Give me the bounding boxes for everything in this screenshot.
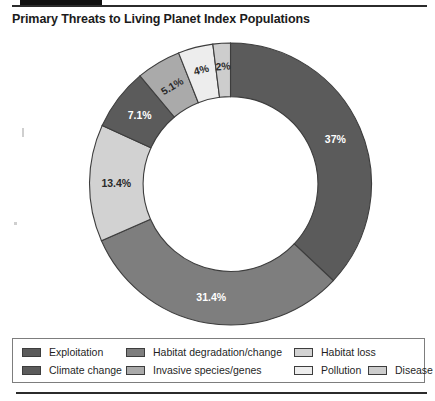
donut-value-label-disease: 2%	[215, 60, 232, 73]
donut-value-label-climate-change: 7.1%	[128, 109, 153, 121]
legend-swatch-disease	[368, 366, 387, 375]
donut-value-label-habitat-loss: 13.4%	[101, 177, 131, 189]
legend-label-exploitation: Exploitation	[49, 346, 103, 358]
legend-item-invasive-species[interactable]: Invasive species/genes	[126, 364, 262, 376]
legend-label-invasive-species: Invasive species/genes	[153, 364, 262, 376]
legend-grid: Exploitation Habitat degradation/change …	[13, 339, 424, 382]
legend-label-pollution: Pollution	[321, 364, 361, 376]
legend-label-climate-change: Climate change	[49, 364, 122, 376]
legend-item-habitat-degradation[interactable]: Habitat degradation/change	[126, 346, 282, 358]
donut-value-label-exploitation: 37%	[325, 133, 347, 145]
legend-swatch-habitat-loss	[294, 348, 313, 357]
legend-item-disease[interactable]: Disease	[368, 364, 433, 376]
legend-item-exploitation[interactable]: Exploitation	[22, 346, 103, 358]
scan-artifact	[22, 128, 24, 137]
donut-value-label-habitat-degradation: 31.4%	[196, 291, 226, 303]
legend-swatch-invasive-species	[126, 366, 145, 375]
donut-slice-habitat-degradation	[101, 219, 333, 325]
legend-item-climate-change[interactable]: Climate change	[22, 364, 122, 376]
scan-artifact	[14, 222, 17, 225]
legend-swatch-pollution	[294, 366, 313, 375]
legend-swatch-habitat-degradation	[126, 348, 145, 357]
legend-label-disease: Disease	[395, 364, 433, 376]
legend-item-habitat-loss[interactable]: Habitat loss	[294, 346, 376, 358]
legend-item-pollution[interactable]: Pollution	[294, 364, 361, 376]
donut-chart: 37%31.4%13.4%7.1%5.1%4%2%	[88, 38, 373, 330]
donut-chart-svg: 37%31.4%13.4%7.1%5.1%4%2%	[88, 38, 373, 330]
legend-swatch-exploitation	[22, 348, 41, 357]
legend-swatch-climate-change	[22, 366, 41, 375]
donut-slice-exploitation	[231, 43, 372, 281]
legend-label-habitat-loss: Habitat loss	[321, 346, 376, 358]
top-divider-rule	[12, 5, 427, 7]
legend-label-habitat-degradation: Habitat degradation/change	[153, 346, 282, 358]
donut-segment-group	[90, 43, 372, 325]
page-title: Primary Threats to Living Planet Index P…	[12, 12, 310, 26]
bottom-divider-rule	[16, 392, 427, 394]
chart-legend: Exploitation Habitat degradation/change …	[12, 338, 425, 383]
